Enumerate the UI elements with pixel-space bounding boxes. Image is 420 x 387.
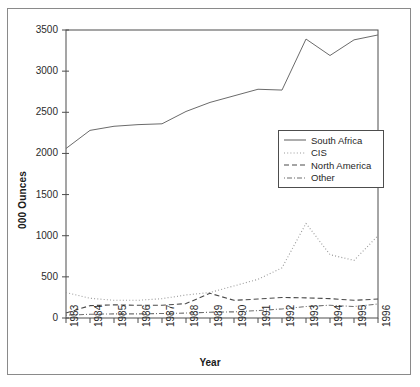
x-tick-label: 1986 — [142, 305, 152, 327]
x-tick-label: 1990 — [238, 305, 248, 327]
legend-label: South Africa — [311, 135, 362, 146]
plot-canvas — [0, 0, 420, 387]
y-tick-label: 2500 — [22, 106, 58, 118]
y-tick-label: 1500 — [22, 189, 58, 201]
legend-label: Other — [311, 172, 335, 183]
x-tick-label: 1996 — [382, 305, 392, 327]
legend-swatch-dotted-icon — [283, 148, 307, 158]
x-tick-label: 1992 — [286, 305, 296, 327]
x-tick-label: 1991 — [262, 305, 272, 327]
y-tick-label: 0 — [22, 312, 58, 324]
y-tick-label: 3500 — [22, 24, 58, 36]
x-axis-title: Year — [0, 357, 420, 368]
legend-swatch-dashdot-icon — [283, 173, 307, 183]
x-tick-label: 1985 — [118, 305, 128, 327]
series-line-cis — [66, 223, 378, 300]
x-tick-label: 1984 — [94, 305, 104, 327]
y-tick-label: 3000 — [22, 65, 58, 77]
legend-item: Other — [283, 172, 379, 185]
x-tick-label: 1993 — [310, 305, 320, 327]
x-tick-label: 1989 — [214, 305, 224, 327]
legend-item: South Africa — [283, 134, 379, 147]
x-tick-label: 1995 — [358, 305, 368, 327]
chart-legend: South AfricaCISNorth AmericaOther — [278, 130, 384, 188]
y-tick-label: 1000 — [22, 230, 58, 242]
x-tick-label: 1987 — [166, 305, 176, 327]
legend-label: North America — [311, 160, 371, 171]
legend-item: CIS — [283, 147, 379, 160]
legend-item: North America — [283, 159, 379, 172]
chart-figure: 000 Ounces 0500100015002000250030003500 … — [0, 0, 420, 387]
legend-label: CIS — [311, 147, 327, 158]
legend-swatch-solid-icon — [283, 135, 307, 145]
y-tick-label: 500 — [22, 271, 58, 283]
x-tick-label: 1988 — [190, 305, 200, 327]
x-tick-label: 1983 — [70, 305, 80, 327]
y-tick-label: 2000 — [22, 147, 58, 159]
x-tick-label: 1994 — [334, 305, 344, 327]
legend-swatch-dashed-icon — [283, 160, 307, 170]
